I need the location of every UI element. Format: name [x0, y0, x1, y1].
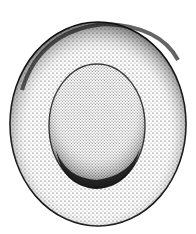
cell-drawing	[0, 0, 196, 234]
inner-nucleus	[49, 64, 145, 189]
stippled-cell-illustration	[0, 0, 196, 234]
